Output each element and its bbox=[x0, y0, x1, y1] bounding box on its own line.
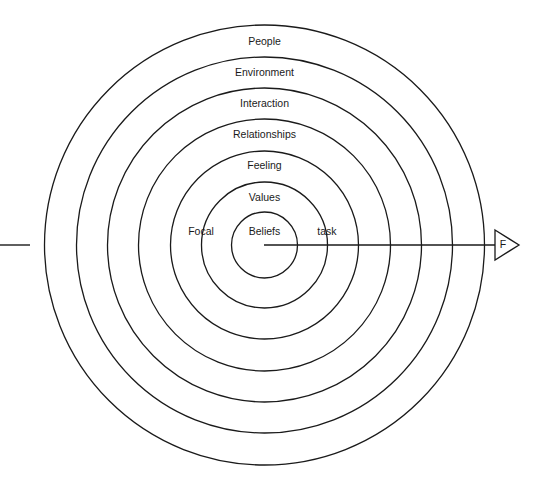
label-values: Values bbox=[249, 191, 280, 203]
label-beliefs: Beliefs bbox=[249, 225, 281, 237]
label-relationships: Relationships bbox=[233, 128, 296, 140]
label-task: task bbox=[317, 225, 337, 237]
arrow-label: F bbox=[500, 238, 506, 250]
label-interaction: Interaction bbox=[240, 97, 289, 109]
label-focal: Focal bbox=[188, 225, 214, 237]
label-people: People bbox=[248, 35, 281, 47]
label-environment: Environment bbox=[235, 66, 294, 78]
arrow-head-icon bbox=[495, 230, 519, 260]
focal-task-diagram: F People Environment Interaction Relatio… bbox=[0, 0, 542, 484]
label-feeling: Feeling bbox=[247, 159, 282, 171]
diagram-canvas: F People Environment Interaction Relatio… bbox=[0, 0, 542, 484]
